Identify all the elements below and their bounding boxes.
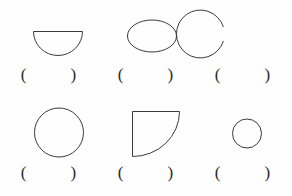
figure-circle-large <box>0 98 97 164</box>
shape-cell-1: ( ) <box>0 0 97 98</box>
close-paren-icon: ) <box>265 164 271 181</box>
close-paren-icon: ) <box>71 164 77 181</box>
close-paren-icon: ) <box>71 66 77 83</box>
open-paren-icon: ( <box>215 66 221 83</box>
close-paren-icon: ) <box>168 66 174 83</box>
figure-open-circle <box>194 0 291 66</box>
answer-row-2: ( ) <box>97 60 194 88</box>
open-paren-icon: ( <box>21 164 27 181</box>
answer-row-6: ( ) <box>194 158 291 186</box>
shape-cell-2: ( ) <box>97 0 194 98</box>
open-paren-icon: ( <box>21 66 27 83</box>
open-paren-icon: ( <box>215 164 221 181</box>
shape-cell-5: ( ) <box>97 98 194 196</box>
close-paren-icon: ) <box>168 164 174 181</box>
shape-cell-4: ( ) <box>0 98 97 196</box>
shape-cell-6: ( ) <box>194 98 291 196</box>
ellipse-path <box>128 20 177 52</box>
worksheet-canvas: ( ) ( ) ( ) <box>0 0 292 196</box>
figure-ellipse <box>97 0 194 66</box>
semicircle-path <box>34 32 83 56</box>
answer-row-3: ( ) <box>194 60 291 88</box>
open-paren-icon: ( <box>118 164 124 181</box>
figure-semicircle <box>0 0 97 66</box>
shape-cell-3: ( ) <box>194 0 291 98</box>
answer-row-5: ( ) <box>97 158 194 186</box>
close-paren-icon: ) <box>265 66 271 83</box>
figure-quarter-disc <box>97 98 194 164</box>
open-paren-icon: ( <box>118 66 124 83</box>
circle-large-path <box>35 108 84 157</box>
answer-row-4: ( ) <box>0 158 97 186</box>
answer-row-1: ( ) <box>0 60 97 88</box>
figure-circle-small <box>194 98 291 164</box>
quarter-disc-path <box>133 112 180 157</box>
circle-small-path <box>233 119 262 148</box>
